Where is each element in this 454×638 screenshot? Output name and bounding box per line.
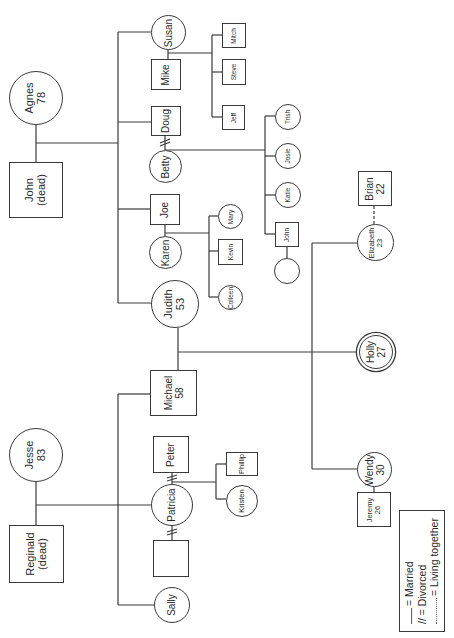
person-joe[interactable]: Joe <box>150 194 180 225</box>
name: Agnes <box>24 82 36 113</box>
name: Betty <box>160 155 171 178</box>
person-colleen[interactable]: Colleen <box>218 285 243 310</box>
name: Doug <box>161 109 172 133</box>
note: (dead) <box>36 174 48 206</box>
person-karen[interactable]: Karen <box>149 236 182 269</box>
person-doug[interactable]: Doug <box>151 106 181 136</box>
person-agnes-label: Agnes 78 <box>24 82 47 113</box>
person-reginald[interactable]: Reginald (dead) <box>9 525 64 583</box>
name: Kevin <box>227 244 234 260</box>
person-katie[interactable]: Katie <box>275 182 301 208</box>
person-john-sr-label: John (dead) <box>24 174 47 206</box>
name: Karen <box>160 239 171 266</box>
person-jeff[interactable]: Jeff <box>222 105 245 130</box>
name: Steve <box>231 64 238 81</box>
person-patricia-ex[interactable] <box>153 540 189 577</box>
person-kristen[interactable]: Kristen <box>226 485 258 517</box>
age: 26 <box>374 497 382 522</box>
name: Colleen <box>227 286 234 308</box>
person-jesse[interactable]: Jesse 83 <box>9 428 63 482</box>
age: 58 <box>174 376 185 410</box>
person-sally[interactable]: Sally <box>154 587 190 623</box>
person-susan[interactable]: Susan <box>151 15 186 50</box>
genogram-canvas: Agnes 78 John (dead) Susan Mike Mitch St… <box>0 0 454 638</box>
age: 83 <box>36 441 48 470</box>
person-brian[interactable]: Brian 22 <box>358 171 392 206</box>
name: Jesse <box>24 441 36 470</box>
legend-married: = Married <box>403 518 416 624</box>
living-together-line-icon <box>436 598 437 624</box>
name: John <box>284 227 291 241</box>
name: Josie <box>285 148 292 163</box>
name: Jeff <box>230 112 237 122</box>
name: Joe <box>160 201 171 217</box>
connector-lines <box>0 0 454 638</box>
name: Wendy <box>364 454 375 485</box>
name: Michael <box>163 376 174 410</box>
person-john-sr[interactable]: John (dead) <box>9 162 63 218</box>
person-peter[interactable]: Peter <box>153 436 189 473</box>
person-holly[interactable]: Holly 27 <box>359 335 393 369</box>
person-judith[interactable]: Judith 53 <box>151 280 199 328</box>
person-patricia[interactable]: Patricia <box>151 484 193 526</box>
age: 53 <box>175 289 187 318</box>
married-line-icon <box>411 608 412 624</box>
divorced-symbol-icon: // <box>416 618 428 624</box>
name: John <box>24 174 36 206</box>
person-john-jr[interactable]: John <box>275 222 299 247</box>
person-betty[interactable]: Betty <box>149 150 182 183</box>
legend-living-together: = Living together <box>428 518 441 624</box>
name: Peter <box>166 443 177 467</box>
person-phillip[interactable]: Phillip <box>226 452 258 476</box>
name: Katie <box>285 188 292 203</box>
name: Mike <box>161 64 172 85</box>
person-kevin[interactable]: Kevin <box>218 239 243 265</box>
name: Judith <box>163 289 175 318</box>
legend-divorced: // = Divorced <box>416 518 429 624</box>
name: Reginald <box>25 532 37 575</box>
person-steve[interactable]: Steve <box>222 59 246 85</box>
person-mary[interactable]: Mary <box>218 204 243 229</box>
note: (dead) <box>37 532 49 575</box>
name: Mary <box>227 209 234 223</box>
name: Mitch <box>231 28 238 44</box>
age: 27 <box>376 341 387 363</box>
person-john-jr-spouse[interactable] <box>274 258 300 284</box>
name: Kristen <box>238 489 246 512</box>
age: 23 <box>376 227 384 258</box>
person-mitch[interactable]: Mitch <box>222 23 246 48</box>
person-wendy[interactable]: Wendy 30 <box>357 452 392 487</box>
name: Sally <box>167 594 178 616</box>
age: 78 <box>36 82 48 113</box>
name: Holly <box>366 341 377 363</box>
person-michael[interactable]: Michael 58 <box>150 370 197 416</box>
person-jeremy[interactable]: Jeremy 26 <box>357 492 391 527</box>
person-elizabeth[interactable]: Elizabeth 23 <box>357 224 394 261</box>
person-agnes[interactable]: Agnes 78 <box>9 71 63 125</box>
name: Susan <box>163 18 174 46</box>
age: 22 <box>375 177 386 200</box>
person-josie[interactable]: Josie <box>275 143 301 169</box>
age: 30 <box>375 454 386 485</box>
name: Phillip <box>238 454 246 474</box>
name: Patricia <box>167 488 178 521</box>
name: Trish <box>285 110 292 124</box>
legend-box: = Married // = Divorced = Living togethe… <box>399 510 445 632</box>
name: Brian <box>365 177 376 200</box>
person-trish[interactable]: Trish <box>275 104 301 130</box>
person-mike[interactable]: Mike <box>151 59 181 90</box>
